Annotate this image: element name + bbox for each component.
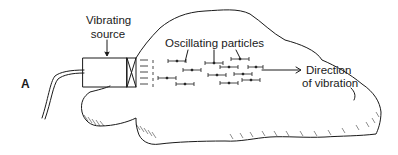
particle-column [140,60,153,87]
source-label-line2: source [86,28,130,40]
oscillating-particles [158,57,263,86]
longitudinal-wave-diagram: A Vibrating source Oscillating particles… [0,0,398,155]
direction-label-line2: of vibration [302,77,358,89]
panel-label: A [21,78,30,90]
particles-label: Oscillating particles [165,37,264,49]
cable [42,70,84,118]
source-label-line1: Vibrating [86,14,130,26]
transducer-body [83,58,127,87]
direction-label-line1: Direction [306,64,351,76]
shading-hatch [84,112,379,139]
